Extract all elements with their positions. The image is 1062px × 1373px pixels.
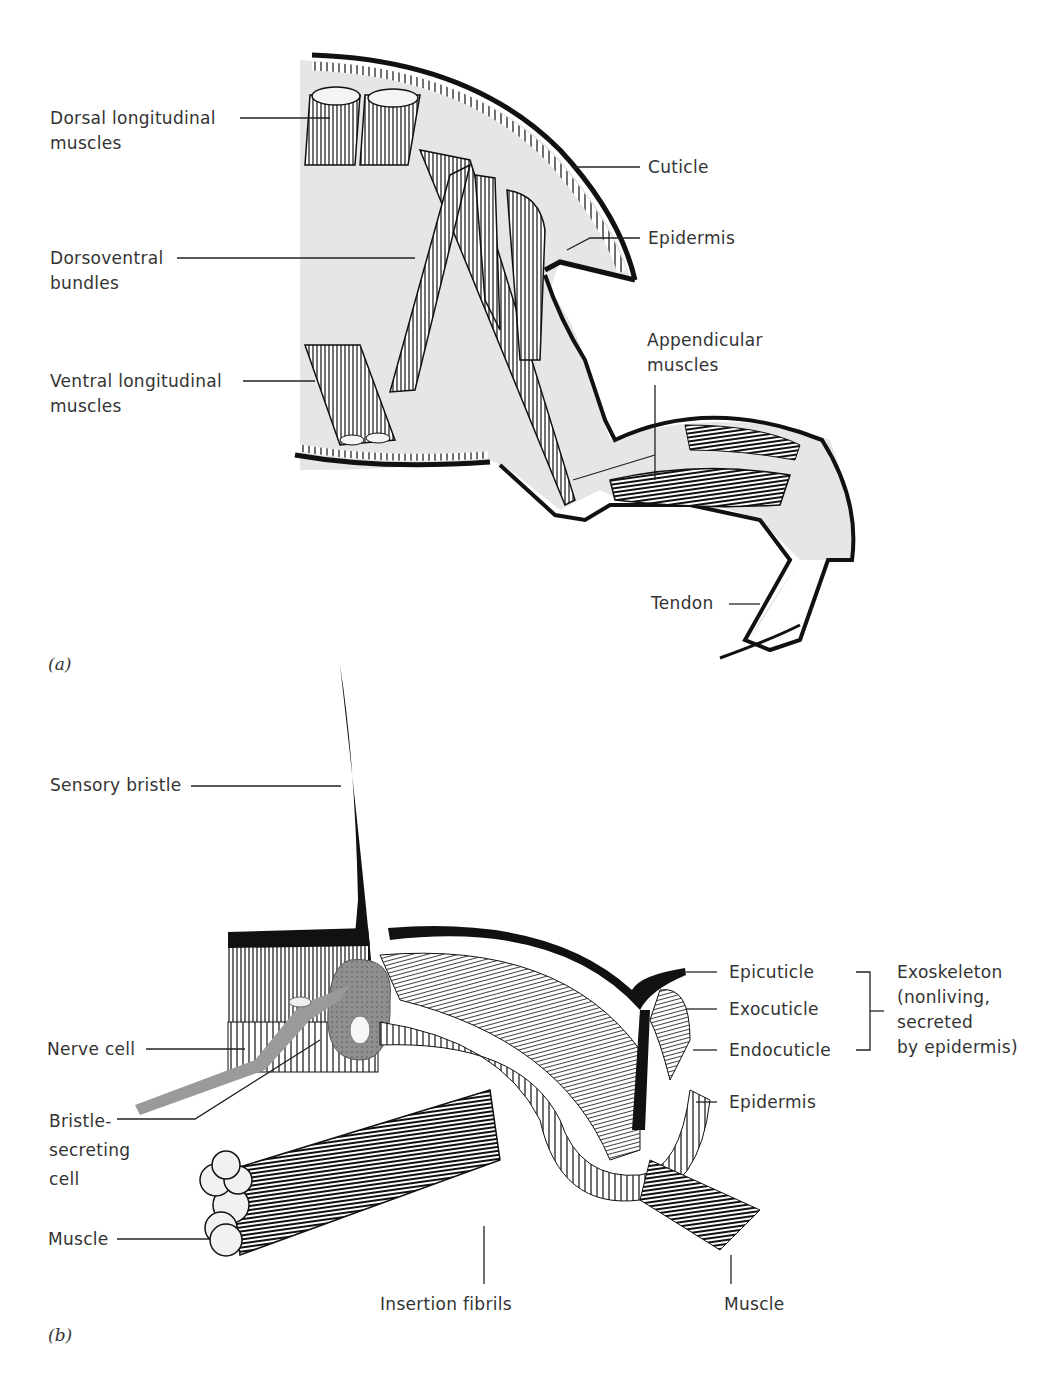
- panel-label-a: (a): [48, 654, 71, 674]
- label-line: muscles: [647, 355, 719, 375]
- label-line: Ventral longitudinal: [50, 371, 222, 391]
- label-muscle-left: Muscle: [48, 1227, 109, 1252]
- label-line: Dorsoventral: [50, 248, 163, 268]
- panel-b-drawing: [135, 665, 760, 1256]
- label-line: Bristle-: [49, 1111, 112, 1131]
- label-line: secreting: [49, 1140, 130, 1160]
- label-dorsoventral-bundles: Dorsoventral bundles: [50, 246, 163, 296]
- label-line: muscles: [50, 133, 122, 153]
- figure-artwork: [0, 0, 1062, 1373]
- label-line: muscles: [50, 396, 122, 416]
- label-line: Exoskeleton: [897, 962, 1003, 982]
- panel-label-b: (b): [48, 1325, 72, 1345]
- label-insertion-fibrils: Insertion fibrils: [380, 1292, 512, 1317]
- label-dorsal-longitudinal-muscles: Dorsal longitudinal muscles: [50, 106, 216, 156]
- label-appendicular-muscles: Appendicular muscles: [647, 328, 763, 378]
- label-cuticle: Cuticle: [648, 155, 709, 180]
- label-tendon: Tendon: [651, 591, 714, 616]
- label-exocuticle: Exocuticle: [729, 997, 819, 1022]
- label-epidermis-b: Epidermis: [729, 1090, 816, 1115]
- label-exoskeleton: Exoskeleton (nonliving, secreted by epid…: [897, 960, 1018, 1060]
- label-epicuticle: Epicuticle: [729, 960, 814, 985]
- label-epidermis-a: Epidermis: [648, 226, 735, 251]
- panel-a-drawing: [295, 55, 853, 658]
- label-muscle-right: Muscle: [724, 1292, 785, 1317]
- label-line: (nonliving,: [897, 987, 990, 1007]
- label-line: Appendicular: [647, 330, 763, 350]
- label-line: by epidermis): [897, 1037, 1018, 1057]
- label-nerve-cell: Nerve cell: [47, 1037, 135, 1062]
- label-bristle-secreting-cell: Bristle- secreting cell: [49, 1107, 130, 1194]
- label-line: bundles: [50, 273, 119, 293]
- label-sensory-bristle: Sensory bristle: [50, 773, 181, 798]
- label-ventral-longitudinal-muscles: Ventral longitudinal muscles: [50, 369, 222, 419]
- label-line: cell: [49, 1169, 79, 1189]
- label-endocuticle: Endocuticle: [729, 1038, 831, 1063]
- label-line: Dorsal longitudinal: [50, 108, 216, 128]
- label-line: secreted: [897, 1012, 973, 1032]
